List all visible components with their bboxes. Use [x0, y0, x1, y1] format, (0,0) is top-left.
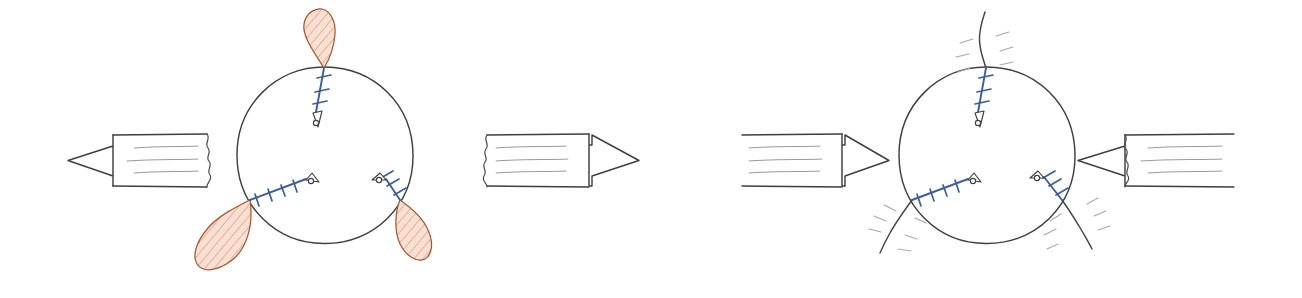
lobe-top	[304, 9, 335, 68]
screw-top	[975, 68, 993, 127]
arrow-left-outward	[68, 134, 211, 187]
crack-top	[956, 12, 1013, 72]
screw-lower-right	[372, 171, 406, 200]
arrow-left-inward	[742, 134, 889, 187]
diagram-svg	[0, 0, 1302, 298]
figure-canvas	[0, 0, 1302, 298]
lobe-lower-left	[195, 200, 251, 270]
screw-lower-left	[912, 173, 981, 206]
panel-left	[68, 9, 639, 270]
lobe-lower-right	[396, 200, 432, 260]
screw-lower-left	[250, 173, 319, 206]
crack-lower-left	[869, 200, 926, 253]
screw-top	[313, 68, 331, 127]
crack-lower-right	[1044, 198, 1110, 249]
screw-lower-right	[1030, 171, 1068, 200]
arrow-right-inward	[1078, 134, 1234, 187]
panel-right	[742, 12, 1234, 253]
bone-circle-left	[237, 67, 413, 244]
arrow-right-outward	[483, 134, 639, 187]
bone-circle-right	[899, 67, 1075, 244]
